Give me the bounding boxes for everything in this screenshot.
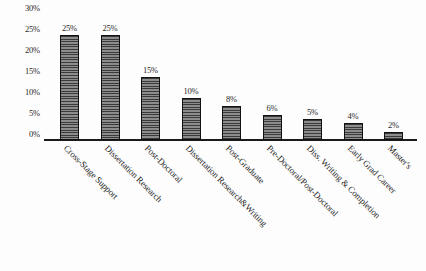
bar <box>263 115 282 140</box>
x-axis-category-label: Post-Graduate <box>224 143 267 186</box>
bar-slot: 15% <box>141 14 160 140</box>
plot-area: 25%25%15%10%8%6%5%4%2% <box>48 14 415 140</box>
x-axis-category-label: Master's <box>386 143 414 171</box>
y-axis-tick-label: 15% <box>25 66 40 76</box>
bar-slot: 25% <box>101 14 120 140</box>
bar <box>141 77 160 140</box>
bar-slot: 25% <box>60 14 79 140</box>
bar-slot: 8% <box>222 14 241 140</box>
bar <box>303 119 322 140</box>
bar-slot: 10% <box>182 14 201 140</box>
y-axis-tick-label: 25% <box>25 24 40 34</box>
bar-value-label: 25% <box>62 23 77 33</box>
bar-value-label: 6% <box>267 103 278 113</box>
bar-slot: 4% <box>344 14 363 140</box>
bar-value-label: 5% <box>307 107 318 117</box>
y-axis-tick-label: 10% <box>25 87 40 97</box>
bar-value-label: 4% <box>348 111 359 121</box>
bar-value-label: 8% <box>226 94 237 104</box>
bar <box>384 132 403 140</box>
bar-slot: 2% <box>384 14 403 140</box>
bar-value-label: 2% <box>388 120 399 130</box>
bar <box>101 35 120 140</box>
bar-value-label: 10% <box>184 86 199 96</box>
bar-slot: 5% <box>303 14 322 140</box>
bar <box>344 123 363 140</box>
x-axis-category-label: Post-Doctoral <box>143 143 185 185</box>
x-axis-category-label: Diss. Writing & Completion <box>305 143 382 220</box>
x-axis-category-label: Pre-Doctoral/Post-Doctoral <box>264 143 339 218</box>
y-axis-tick-label: 30% <box>25 3 40 13</box>
y-axis-tick-label: 0% <box>29 129 40 139</box>
bar <box>60 35 79 140</box>
x-axis-labels: Cross-Stage SupportDissertation Research… <box>48 143 426 271</box>
bar-chart: 0%5%10%15%20%25%30% 25%25%15%10%8%6%5%4%… <box>0 0 426 271</box>
y-axis: 0%5%10%15%20%25%30% <box>0 8 44 140</box>
bar-slot: 6% <box>263 14 282 140</box>
bar <box>182 98 201 140</box>
bar-value-label: 25% <box>103 23 118 33</box>
y-axis-tick-label: 20% <box>25 45 40 55</box>
bar-value-label: 15% <box>143 65 158 75</box>
y-axis-tick-label: 5% <box>29 108 40 118</box>
bar <box>222 106 241 140</box>
x-axis-category-label: Dissertation Research&Writing <box>183 143 268 228</box>
